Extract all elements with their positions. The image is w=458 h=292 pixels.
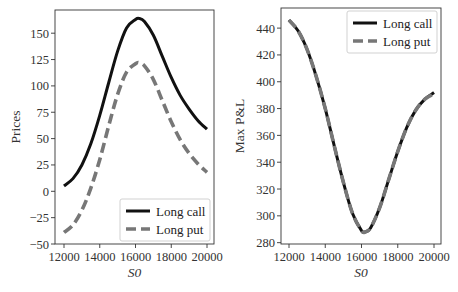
x-axis-label: S0 [354,265,368,280]
y-tick-label: 380 [256,102,275,116]
y-axis-label: Max P&L [232,99,247,153]
y-tick-label: −50 [29,238,49,252]
y-tick-label: 50 [37,132,50,146]
y-tick-label: 400 [256,75,275,89]
legend-entry-label: Long call [156,204,206,219]
y-tick-label: 420 [256,48,275,62]
legend-entry-label: Long call [383,16,433,31]
y-tick-label: 150 [30,27,49,41]
x-tick-label: 20000 [418,250,449,264]
x-tick-label: 12000 [273,250,304,264]
series-long-call [64,18,207,186]
x-tick-label: 18000 [156,250,187,264]
legend-entry-label: Long put [156,222,204,237]
y-tick-label: 100 [30,79,49,93]
y-tick-label: 340 [256,156,275,170]
x-tick-label: 14000 [310,250,341,264]
y-tick-label: 300 [256,209,275,223]
figure: 1200014000160001800020000−50−25025507510… [0,0,458,292]
legend: Long callLong put [347,11,437,53]
legend-entry-label: Long put [383,34,431,49]
y-tick-label: 25 [37,158,50,172]
y-tick-label: 75 [37,106,50,120]
y-tick-label: 0 [43,185,49,199]
y-tick-label: −25 [29,211,49,225]
y-tick-label: 320 [256,183,275,197]
x-tick-label: 18000 [382,250,413,264]
y-tick-label: 440 [256,22,275,36]
x-tick-label: 12000 [48,250,79,264]
y-axis-label: Prices [8,111,23,144]
chart-panel-left: 1200014000160001800020000−50−25025507510… [8,10,223,280]
chart-panel-right: 1200014000160001800020000280300320340360… [232,8,450,280]
x-tick-label: 16000 [120,250,151,264]
x-tick-label: 20000 [191,250,222,264]
x-tick-label: 16000 [346,250,377,264]
chart-canvas: 1200014000160001800020000−50−25025507510… [0,0,458,292]
x-axis-label: S0 [128,265,142,280]
y-tick-label: 360 [256,129,275,143]
y-tick-label: 125 [30,53,49,67]
y-tick-label: 280 [256,236,275,250]
legend: Long callLong put [120,199,210,241]
x-tick-label: 14000 [84,250,115,264]
